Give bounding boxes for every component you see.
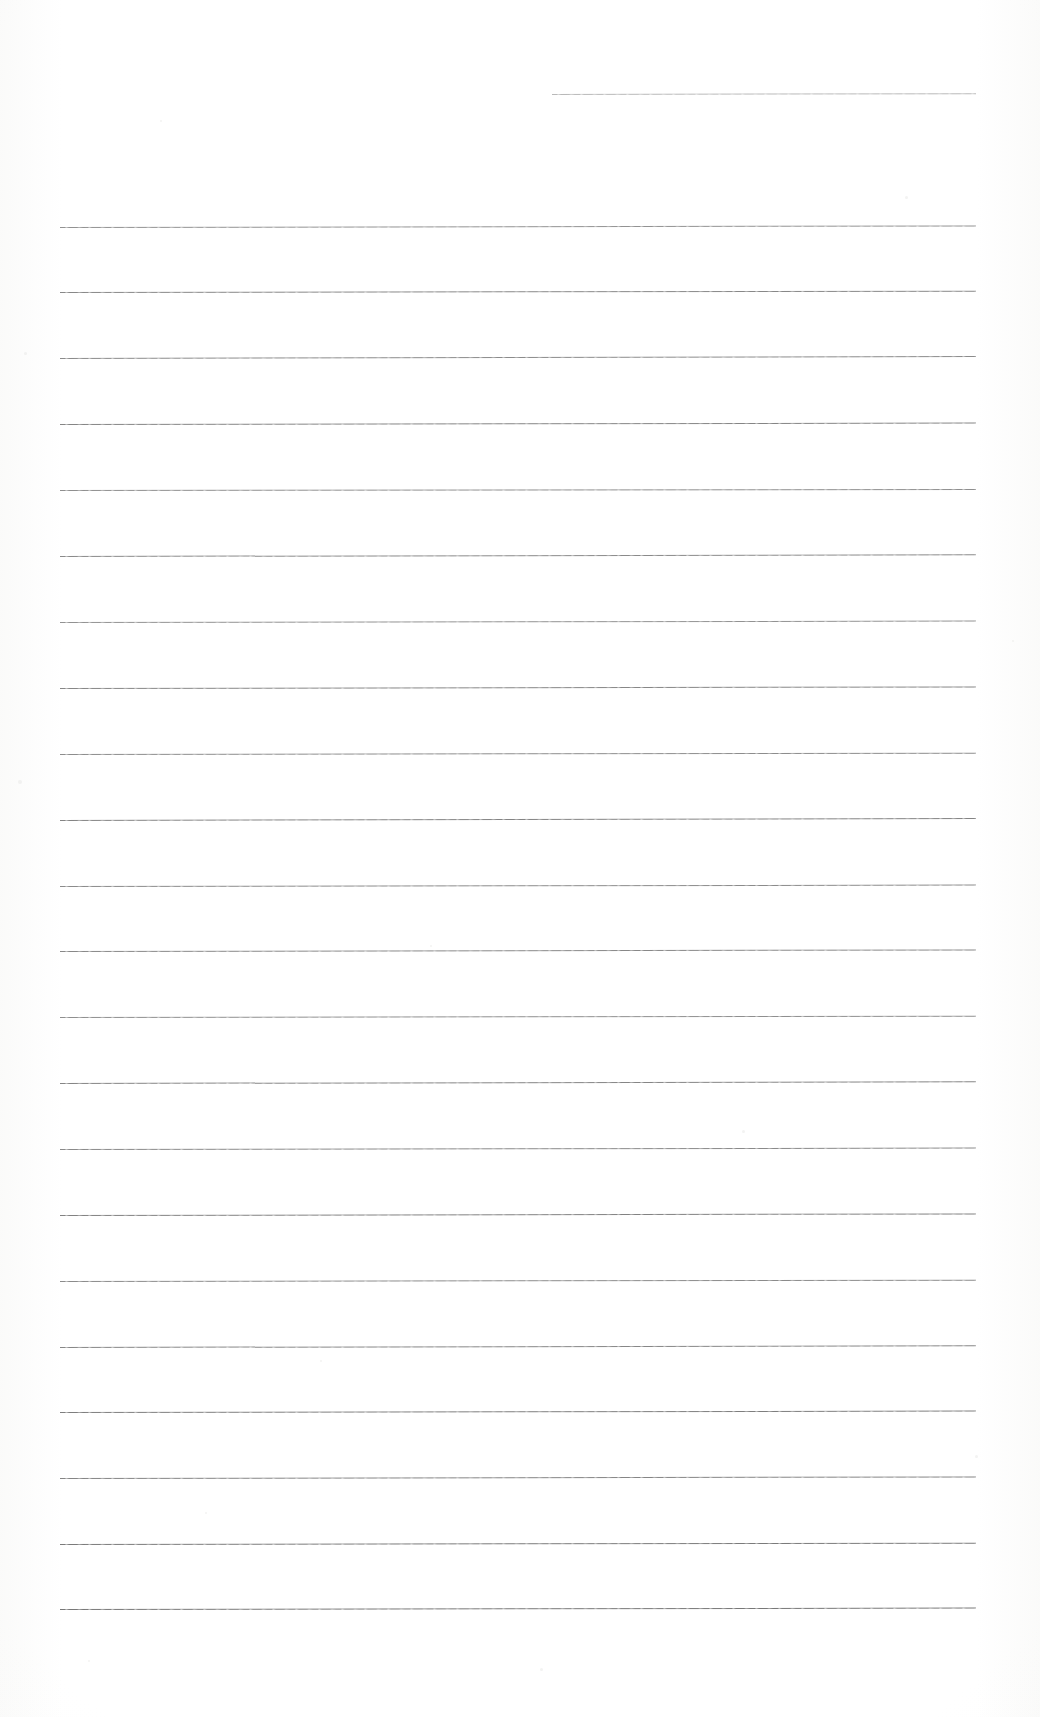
ruled-line <box>60 1411 976 1413</box>
ruled-line <box>60 1213 976 1216</box>
ruled-line <box>60 1543 976 1545</box>
ruled-line <box>60 949 976 952</box>
scan-speck <box>320 1360 322 1362</box>
ruled-line <box>60 885 976 887</box>
ruled-line <box>60 1476 976 1479</box>
ruled-line <box>60 489 976 491</box>
scan-speck <box>430 945 432 947</box>
scan-speck <box>24 352 27 355</box>
scan-speckle-layer <box>0 0 1040 1717</box>
ruled-line <box>60 554 976 557</box>
scan-speck <box>1012 640 1014 642</box>
scan-speck <box>742 1130 745 1133</box>
ruled-line <box>60 818 976 821</box>
ruled-line <box>60 686 976 689</box>
ruled-line <box>60 753 976 755</box>
paper-texture <box>0 0 1040 1717</box>
ruled-line <box>60 1345 976 1348</box>
ruled-line <box>60 356 976 359</box>
ruled-line <box>60 1608 976 1610</box>
ruled-line <box>60 225 976 228</box>
scan-speck <box>905 196 908 199</box>
ruled-line <box>60 1081 976 1084</box>
scan-speck <box>540 1668 543 1671</box>
scan-speck <box>205 1512 207 1514</box>
notepaper-page <box>0 0 1040 1717</box>
ruled-line <box>60 1280 976 1282</box>
ruled-line <box>60 1148 976 1150</box>
ruled-line <box>552 93 976 95</box>
scan-speck <box>18 780 22 784</box>
scan-speck <box>975 1455 978 1458</box>
scan-speck <box>160 120 162 122</box>
ruled-line <box>60 621 976 623</box>
ruled-line <box>60 1016 976 1018</box>
ruled-line <box>60 423 976 425</box>
ruled-line <box>60 291 976 293</box>
scan-speck <box>88 1660 90 1662</box>
